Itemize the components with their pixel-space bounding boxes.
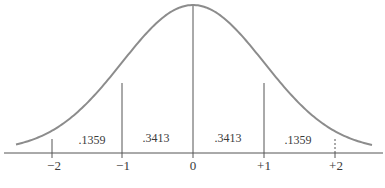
area-label-plus1-plus2: .1359	[285, 133, 312, 148]
tick-label-minus-2: −2	[47, 158, 61, 174]
tick-label-plus-1: +1	[257, 158, 271, 174]
normal-distribution-figure: .1359 .3413 .3413 .1359 −2 −1 0 +1 +2 … …	[0, 0, 385, 188]
area-label-minus1-0: .3413	[143, 131, 170, 146]
area-label-0-plus1: .3413	[215, 131, 242, 146]
tick-label-plus-2: +2	[329, 158, 343, 174]
figure-caption-cropped: … … … … …	[0, 181, 385, 188]
tick-label-minus-1: −1	[116, 158, 130, 174]
tick-label-0: 0	[190, 158, 197, 174]
bell-curve	[16, 5, 372, 145]
area-label-minus2-minus1: .1359	[79, 133, 106, 148]
